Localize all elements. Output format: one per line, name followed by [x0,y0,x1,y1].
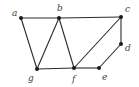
node-c [119,15,123,19]
node-label-c: c [125,4,130,14]
edge-f-c [74,17,121,68]
edges-layer [21,17,121,69]
edge-a-g [21,18,37,69]
node-label-d: d [125,43,131,53]
edge-g-f [37,68,74,69]
edge-b-f [59,18,74,68]
node-d [119,42,123,46]
node-label-a: a [12,8,17,18]
labels-layer: abcdefg [12,3,131,84]
edge-d-e [99,44,121,68]
graph-svg: abcdefg [0,0,139,87]
edge-g-b [37,18,59,69]
node-b [57,16,61,20]
node-label-f: f [71,74,77,84]
graph-diagram: abcdefg [0,0,139,87]
node-g [35,67,39,71]
node-label-e: e [102,72,107,82]
node-e [97,66,101,70]
node-label-b: b [57,3,63,13]
node-f [72,66,76,70]
node-a [19,16,23,20]
node-label-g: g [28,73,34,83]
edge-b-c [59,17,121,18]
